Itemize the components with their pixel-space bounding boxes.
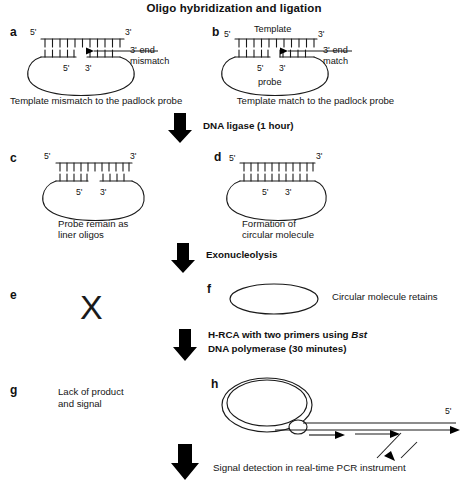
- panel-d: d 5' 3': [212, 148, 412, 238]
- down-arrow-icon: [167, 113, 193, 143]
- panel-b-caption: Template match to the padlock probe: [208, 95, 423, 107]
- panel-c-caption-line2: liner oligos: [58, 229, 104, 241]
- panel-f-letter: f: [207, 283, 211, 295]
- panel-g-letter: g: [10, 384, 17, 396]
- panel-c-caption-line1: Probe remain as: [58, 218, 128, 230]
- panel-e: e X: [8, 282, 158, 332]
- panel-g-caption-line2: and signal: [58, 398, 102, 410]
- panel-b-annotation-line2: match: [323, 56, 348, 67]
- step-signal-detection-label: Signal detection in real-time PCR instru…: [213, 462, 406, 474]
- panel-a: a 5' 3': [8, 22, 213, 112]
- panel-e-letter: e: [10, 289, 17, 301]
- step-exonucleolysis: Exonucleolysis: [170, 243, 468, 273]
- panel-b: b 5' Template 3': [210, 22, 420, 112]
- panel-f-circular-molecule: [227, 281, 322, 317]
- down-arrow-icon: [170, 444, 200, 480]
- step-hrca-label-line1: H-RCA with two primers using Bst: [208, 329, 367, 341]
- step-exonucleolysis-label: Exonucleolysis: [206, 249, 277, 261]
- panel-c: c 5' 3': [8, 148, 208, 238]
- panel-a-annotation-line2: mismatch: [130, 56, 169, 67]
- panel-f-caption: Circular molecule retains: [332, 291, 438, 303]
- down-arrow-icon: [170, 243, 196, 273]
- panel-f: f Circular molecule retains: [205, 278, 468, 323]
- panel-d-caption-line1: Formation of: [242, 218, 296, 230]
- step-hrca-label-line2: DNA polymerase (30 minutes): [208, 343, 346, 355]
- panel-d-5prime-inner: 5': [262, 187, 268, 197]
- panel-c-3prime-inner: 3': [100, 187, 106, 197]
- panel-g-caption-line1: Lack of product: [58, 386, 124, 398]
- panel-a-3prime-inner: 3': [85, 63, 91, 73]
- panel-b-probe-label: probe: [258, 77, 282, 88]
- panel-d-caption-line2: circular molecule: [242, 229, 314, 241]
- panel-b-3prime-inner: 3': [279, 63, 285, 73]
- figure-title: Oligo hybridization and ligation: [0, 2, 468, 14]
- down-arrow-icon: [172, 329, 198, 361]
- panel-a-5prime-inner: 5': [63, 63, 69, 73]
- step-dna-ligase: DNA ligase (1 hour): [167, 113, 467, 143]
- panel-h-5prime-label: 5': [445, 406, 451, 416]
- step-hrca: H-RCA with two primers using Bst DNA pol…: [172, 327, 468, 363]
- step-dna-ligase-label: DNA ligase (1 hour): [203, 120, 294, 132]
- step-signal-detection: Signal detection in real-time PCR instru…: [170, 444, 468, 484]
- panel-b-annotation-line1: 3' end: [323, 45, 348, 56]
- panel-c-5prime-inner: 5': [76, 187, 82, 197]
- panel-a-annotation-line1: 3' end: [130, 45, 155, 56]
- step-hrca-enzyme-name: Bst: [351, 329, 367, 340]
- step-hrca-label-prefix: H-RCA with two primers using: [208, 329, 351, 340]
- panel-d-3prime-inner: 3': [285, 187, 291, 197]
- panel-e-cross-icon: X: [80, 290, 103, 324]
- panel-a-caption: Template mismatch to the padlock probe: [10, 95, 215, 107]
- panel-b-5prime-inner: 5': [257, 63, 263, 73]
- panel-h-primer-arrows: [450, 426, 460, 434]
- panel-g: g Lack of product and signal: [8, 382, 188, 422]
